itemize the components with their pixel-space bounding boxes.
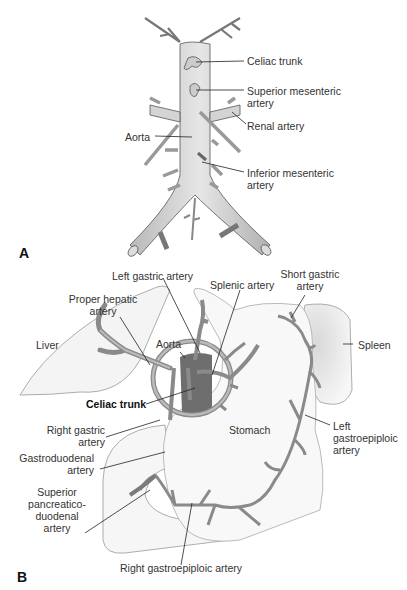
- label-short-gastric-line1: Short gastric: [278, 268, 342, 280]
- label-sup-pancreaticoduodenal-line4: artery: [22, 522, 92, 534]
- panel-letter-a: A: [19, 245, 29, 261]
- label-short-gastric-line2: artery: [278, 280, 342, 292]
- label-sup-pancreaticoduodenal-line1: Superior: [22, 486, 92, 498]
- label-left-gastroepiploic-line3: artery: [333, 444, 360, 456]
- label-stomach: Stomach: [229, 424, 270, 436]
- label-inferior-mesenteric-line1: Inferior mesenteric: [247, 167, 334, 179]
- label-sup-pancreaticoduodenal-line3: duodenal: [22, 510, 92, 522]
- label-splenic-artery: Splenic artery: [210, 279, 274, 291]
- label-aorta-a: Aorta: [125, 131, 150, 143]
- label-gastroduodenal-line1: Gastroduodenal: [10, 452, 94, 464]
- panel-letter-b: B: [17, 569, 27, 585]
- label-aorta-b: Aorta: [156, 338, 181, 350]
- label-superior-mesenteric-line2: artery: [247, 97, 274, 109]
- label-left-gastroepiploic-line2: gastroepiploic: [333, 432, 398, 444]
- label-proper-hepatic-line2: artery: [66, 305, 140, 317]
- aorta-block: [180, 353, 212, 415]
- label-right-gastric-line1: Right gastric: [40, 424, 105, 436]
- label-gastroduodenal-line2: artery: [10, 464, 94, 476]
- label-right-gastric-line2: artery: [40, 436, 105, 448]
- label-inferior-mesenteric-line2: artery: [247, 179, 274, 191]
- label-spleen: Spleen: [358, 339, 391, 351]
- label-proper-hepatic-line1: Proper hepatic: [66, 293, 140, 305]
- label-sup-pancreaticoduodenal-line2: pancreatico-: [22, 498, 92, 510]
- label-superior-mesenteric-line1: Superior mesenteric: [247, 85, 341, 97]
- label-celiac-trunk-b: Celiac trunk: [86, 398, 146, 410]
- label-liver: Liver: [36, 339, 59, 351]
- label-left-gastroepiploic-line1: Left: [333, 420, 351, 432]
- label-left-gastric-artery: Left gastric artery: [112, 270, 193, 282]
- label-right-gastroepiploic-artery: Right gastroepiploic artery: [120, 562, 242, 574]
- label-celiac-trunk-a: Celiac trunk: [247, 55, 302, 67]
- label-renal-artery: Renal artery: [247, 120, 304, 132]
